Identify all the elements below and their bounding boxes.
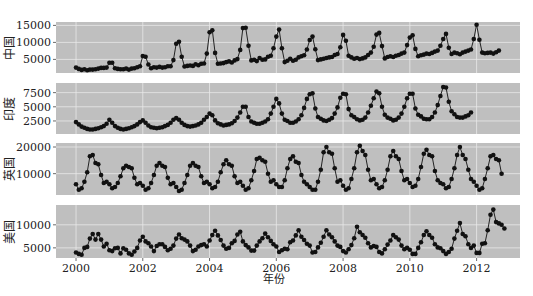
data-point (246, 186, 251, 191)
y-axis-label: 中国 (2, 36, 17, 60)
data-point (243, 105, 248, 110)
data-point (266, 171, 271, 176)
data-point (305, 47, 310, 52)
data-point (449, 177, 454, 182)
data-point (280, 46, 285, 51)
data-point (452, 166, 457, 171)
data-point (413, 183, 418, 188)
data-point (355, 224, 360, 229)
data-point (413, 252, 418, 257)
data-point (396, 157, 401, 162)
data-point (349, 177, 354, 182)
data-point (321, 150, 326, 155)
data-point (202, 61, 207, 66)
data-point (271, 105, 276, 110)
panel-1: 250050007500印度 (2, 83, 520, 134)
data-point (405, 177, 410, 182)
data-point (96, 232, 101, 237)
data-point (246, 44, 251, 49)
data-point (410, 33, 415, 38)
data-point (396, 115, 401, 120)
data-point (369, 103, 374, 108)
data-point (230, 163, 235, 168)
data-point (207, 182, 212, 187)
data-point (380, 185, 385, 190)
y-tick-label: 10000 (16, 36, 51, 49)
data-point (330, 235, 335, 240)
data-point (280, 111, 285, 116)
y-tick-label: 10000 (16, 219, 51, 232)
data-point (413, 47, 418, 52)
data-point (477, 251, 482, 256)
data-point (116, 246, 121, 251)
data-point (416, 177, 421, 182)
data-point (463, 157, 468, 162)
data-point (341, 183, 346, 188)
data-point (363, 115, 368, 120)
data-point (413, 106, 418, 111)
data-point (313, 106, 318, 111)
data-point (491, 153, 496, 158)
data-point (435, 48, 440, 53)
data-point (430, 154, 435, 159)
data-point (252, 169, 257, 174)
data-point (405, 96, 410, 101)
data-point (269, 53, 274, 58)
data-point (302, 238, 307, 243)
data-point (205, 244, 210, 249)
data-point (88, 236, 93, 241)
data-point (118, 251, 123, 256)
data-point (433, 110, 438, 115)
data-point (277, 101, 282, 106)
data-point (294, 233, 299, 238)
data-point (224, 158, 229, 163)
data-point (388, 238, 393, 243)
x-tick-label: 2012 (463, 262, 491, 275)
data-point (113, 185, 118, 190)
y-tick-label: 5000 (23, 242, 51, 255)
data-point (99, 237, 104, 242)
data-point (274, 244, 279, 249)
data-point (182, 181, 187, 186)
y-axis-label: 印度 (2, 97, 17, 121)
data-point (377, 31, 382, 36)
y-tick-label: 5000 (23, 101, 51, 114)
data-point (269, 111, 274, 116)
data-point (374, 182, 379, 187)
data-point (424, 229, 429, 234)
data-point (399, 169, 404, 174)
data-point (135, 246, 140, 251)
data-point (433, 169, 438, 174)
data-point (116, 181, 121, 186)
data-point (341, 33, 346, 38)
data-point (352, 166, 357, 171)
data-point (460, 153, 465, 158)
data-point (96, 162, 101, 167)
data-point (391, 149, 396, 154)
data-point (213, 229, 218, 234)
data-point (366, 167, 371, 172)
data-point (330, 151, 335, 156)
data-point (346, 247, 351, 252)
x-tick-label: 2002 (129, 262, 157, 275)
data-point (472, 37, 477, 42)
data-point (472, 179, 477, 184)
data-point (435, 103, 440, 108)
data-point (363, 235, 368, 240)
data-point (355, 150, 360, 155)
data-point (363, 153, 368, 158)
data-point (177, 39, 182, 44)
data-point (274, 34, 279, 39)
data-point (99, 173, 104, 178)
data-point (338, 95, 343, 100)
data-point (179, 187, 184, 192)
data-point (352, 236, 357, 241)
data-point (371, 45, 376, 50)
data-point (399, 243, 404, 248)
data-point (90, 153, 95, 158)
data-point (285, 166, 290, 171)
data-point (213, 185, 218, 190)
data-point (455, 153, 460, 158)
data-point (207, 238, 212, 243)
panel-3: 500010000美国 (3, 205, 520, 258)
